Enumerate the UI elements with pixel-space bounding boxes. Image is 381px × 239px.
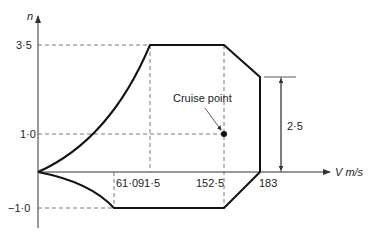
- cruise-point-marker: [221, 131, 227, 137]
- vn-diagram: Cruise point 2·5 n V m/s 3·5 1·0 −1·0 61…: [0, 0, 381, 239]
- dimension-label: 2·5: [287, 120, 303, 132]
- x-tick-183: 183: [259, 177, 277, 189]
- v-axis-label: V m/s: [335, 166, 364, 178]
- x-tick-91-5: 91·5: [138, 177, 160, 189]
- x-tick-61: 61·0: [116, 177, 138, 189]
- y-tick-neg1-0: −1·0: [8, 202, 30, 214]
- positive-envelope: [38, 45, 260, 172]
- cruise-point-label: Cruise point: [173, 92, 232, 104]
- y-tick-3-5: 3·5: [16, 39, 32, 51]
- n-axis-label: n: [27, 10, 33, 22]
- x-tick-152-5: 152·5: [196, 177, 224, 189]
- y-tick-1-0: 1·0: [20, 128, 36, 140]
- cruise-leader-arrow: [205, 108, 221, 130]
